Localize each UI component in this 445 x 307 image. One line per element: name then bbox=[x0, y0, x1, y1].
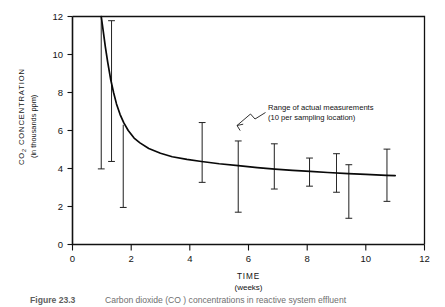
y-axis-title: CO2 CONCENTRATION bbox=[17, 68, 27, 165]
x-axis-ticks bbox=[73, 245, 425, 251]
plot-frame bbox=[73, 17, 425, 245]
co2-decay-curve bbox=[101, 17, 395, 176]
caption-label: Figure 23.3 bbox=[30, 295, 76, 305]
figure-caption: Figure 23.3 Carbon dioxide (CO ) concent… bbox=[0, 294, 445, 307]
y-tick-label: 6 bbox=[58, 125, 63, 136]
x-tick-label: 10 bbox=[361, 253, 372, 264]
x-axis-subtitle: (weeks) bbox=[234, 283, 262, 292]
annotation-line-1: Range of actual measurements bbox=[268, 103, 374, 112]
y-tick-label: 8 bbox=[58, 87, 63, 98]
y-tick-label: 12 bbox=[52, 11, 63, 22]
y-axis-tick-labels: 12 10 8 6 4 2 0 bbox=[52, 11, 63, 250]
x-axis-tick-labels: 0 2 4 6 8 10 12 bbox=[70, 253, 430, 264]
co2-concentration-chart: 12 10 8 6 4 2 0 0 2 4 6 8 10 12 bbox=[0, 0, 445, 307]
x-tick-label: 6 bbox=[246, 253, 251, 264]
x-axis-title: TIME bbox=[237, 272, 260, 281]
y-axis-title-group: CO2 CONCENTRATION (in thousands ppm) bbox=[17, 68, 38, 165]
x-tick-label: 12 bbox=[419, 253, 430, 264]
annotation-line-2: (10 per sampling location) bbox=[268, 113, 356, 122]
y-tick-label: 4 bbox=[58, 163, 63, 174]
y-tick-label: 10 bbox=[52, 49, 63, 60]
x-tick-label: 8 bbox=[305, 253, 310, 264]
annotation-leader bbox=[237, 113, 266, 131]
figure-container: 12 10 8 6 4 2 0 0 2 4 6 8 10 12 bbox=[0, 0, 445, 307]
y-axis-subtitle: (in thousands ppm) bbox=[29, 95, 38, 158]
y-tick-label: 2 bbox=[58, 201, 63, 212]
x-tick-label: 4 bbox=[187, 253, 192, 264]
x-tick-label: 2 bbox=[129, 253, 134, 264]
x-tick-label: 0 bbox=[70, 253, 75, 264]
caption-body: Carbon dioxide (CO ) concentrations in r… bbox=[105, 295, 347, 305]
y-tick-label: 0 bbox=[58, 239, 63, 250]
